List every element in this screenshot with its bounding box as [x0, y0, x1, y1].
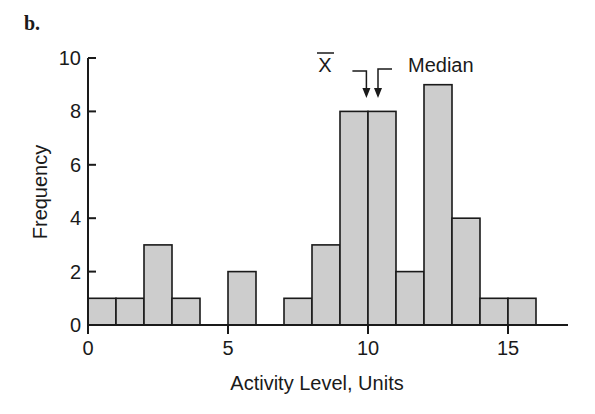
x-tick-label: 0	[82, 337, 93, 359]
median-arrowhead-icon	[374, 88, 382, 98]
mean-label: X	[318, 54, 331, 76]
x-tick-label: 15	[497, 337, 519, 359]
histogram-bar	[284, 298, 312, 325]
histogram-bar	[424, 85, 452, 325]
y-tick-label: 2	[70, 261, 81, 283]
x-axis-label: Activity Level, Units	[230, 372, 403, 394]
y-tick-label: 4	[70, 207, 81, 229]
y-tick-label: 8	[70, 100, 81, 122]
histogram-bar	[172, 298, 200, 325]
histogram-bar	[312, 245, 340, 325]
histogram-bar	[228, 272, 256, 325]
histogram-bar	[116, 298, 144, 325]
histogram-bar	[88, 298, 116, 325]
histogram-bar	[452, 218, 480, 325]
histogram-bar	[396, 272, 424, 325]
histogram-bar	[144, 245, 172, 325]
mean-arrowhead-icon	[362, 88, 370, 98]
y-tick-label: 10	[59, 47, 81, 69]
y-axis-label: Frequency	[29, 145, 51, 240]
histogram-bar	[480, 298, 508, 325]
histogram-chart: 0246810051015 XMedian Activity Level, Un…	[0, 0, 595, 414]
histogram-bars	[88, 85, 536, 325]
median-label: Median	[408, 54, 474, 76]
histogram-bar	[368, 111, 396, 325]
histogram-bar	[508, 298, 536, 325]
histogram-bar	[340, 111, 368, 325]
y-tick-label: 0	[70, 314, 81, 336]
y-tick-label: 6	[70, 154, 81, 176]
x-tick-label: 5	[222, 337, 233, 359]
x-tick-label: 10	[357, 337, 379, 359]
